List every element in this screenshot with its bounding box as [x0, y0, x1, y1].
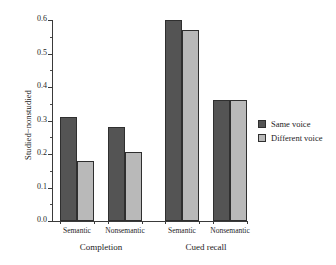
y-axis-line	[52, 20, 53, 221]
x-tick-mark	[247, 221, 248, 224]
y-tick-label: 0.3	[37, 115, 47, 124]
legend-swatch-icon	[258, 120, 266, 128]
y-tick-mark	[48, 221, 52, 222]
y-tick-minor	[50, 37, 52, 38]
x-axis-line	[52, 221, 248, 222]
y-axis-label: Studied−nonstudied	[23, 45, 33, 205]
x-tick-mark	[94, 221, 95, 224]
bar-chart-figure: Studied−nonstudied 0.00.10.20.30.40.50.6…	[0, 0, 336, 265]
legend-item-label: Different voice	[271, 133, 323, 143]
y-tick-label: 0.4	[37, 81, 47, 90]
y-tick-mark	[48, 87, 52, 88]
bar	[213, 100, 230, 221]
x-tick-mark	[199, 221, 200, 224]
y-tick-label: 0.1	[37, 182, 47, 191]
x-category-label: Nonsemantic	[210, 226, 250, 235]
x-group-label: Completion	[80, 242, 123, 252]
chart-legend: Same voiceDifferent voice	[258, 117, 323, 145]
y-tick-mark	[48, 54, 52, 55]
y-tick-mark	[48, 121, 52, 122]
x-tick-mark	[142, 221, 143, 224]
bar	[108, 127, 125, 221]
y-tick-label: 0.2	[37, 148, 47, 157]
x-category-label: Nonsemantic	[105, 226, 145, 235]
x-tick-mark	[60, 221, 61, 224]
legend-swatch-icon	[258, 134, 266, 142]
x-group-label: Cued recall	[185, 242, 226, 252]
bar	[125, 152, 142, 221]
x-tick-mark	[108, 221, 109, 224]
y-tick-mark	[48, 20, 52, 21]
x-tick-mark	[213, 221, 214, 224]
bar	[165, 20, 182, 221]
bar	[77, 161, 94, 221]
y-tick-label: 0.5	[37, 48, 47, 57]
legend-item: Same voice	[258, 117, 323, 130]
y-tick-mark	[48, 154, 52, 155]
y-tick-mark	[48, 188, 52, 189]
y-tick-minor	[50, 171, 52, 172]
x-category-label: Semantic	[168, 226, 196, 235]
legend-item-label: Same voice	[271, 119, 310, 129]
legend-item: Different voice	[258, 131, 323, 144]
bar	[230, 100, 247, 221]
x-tick-mark	[165, 221, 166, 224]
y-tick-minor	[50, 204, 52, 205]
y-tick-minor	[50, 104, 52, 105]
y-tick-label: 0.6	[37, 14, 47, 23]
y-tick-label: 0.0	[37, 215, 47, 224]
y-tick-minor	[50, 70, 52, 71]
bar	[182, 30, 199, 221]
plot-area: 0.00.10.20.30.40.50.6 SemanticNonsemanti…	[52, 20, 248, 221]
x-category-label: Semantic	[63, 226, 91, 235]
bar	[60, 117, 77, 221]
y-tick-minor	[50, 137, 52, 138]
